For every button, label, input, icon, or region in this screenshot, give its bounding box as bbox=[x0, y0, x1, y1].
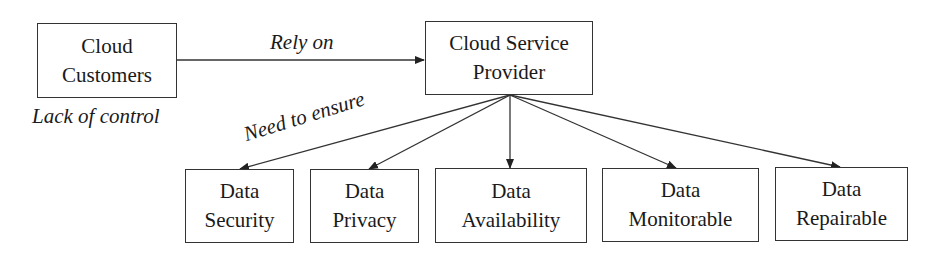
label-lack-of-control: Lack of control bbox=[32, 104, 160, 129]
node-cloud-customers: Cloud Customers bbox=[37, 23, 177, 98]
edge-privacy bbox=[369, 95, 510, 169]
node-data-monitorable: Data Monitorable bbox=[602, 168, 759, 242]
node-line: Customers bbox=[62, 61, 152, 90]
node-line: Data bbox=[345, 177, 385, 206]
edge-repairable bbox=[510, 95, 840, 167]
node-line: Security bbox=[205, 206, 275, 235]
node-line: Data bbox=[220, 177, 260, 206]
label-rely-on: Rely on bbox=[270, 30, 334, 55]
node-line: Data bbox=[661, 176, 701, 205]
node-line: Repairable bbox=[796, 204, 887, 233]
node-data-privacy: Data Privacy bbox=[310, 169, 419, 243]
node-data-security: Data Security bbox=[185, 169, 294, 243]
node-line: Cloud bbox=[81, 32, 132, 61]
node-line: Provider bbox=[473, 58, 545, 87]
node-line: Cloud Service bbox=[449, 29, 569, 58]
node-line: Privacy bbox=[332, 206, 396, 235]
edge-monitorable bbox=[510, 95, 676, 168]
node-line: Data bbox=[491, 177, 531, 206]
node-data-availability: Data Availability bbox=[435, 168, 587, 243]
node-line: Monitorable bbox=[629, 205, 733, 234]
node-line: Availability bbox=[462, 206, 561, 235]
node-data-repairable: Data Repairable bbox=[775, 167, 908, 241]
node-cloud-service-provider: Cloud Service Provider bbox=[425, 21, 593, 95]
node-line: Data bbox=[822, 175, 862, 204]
